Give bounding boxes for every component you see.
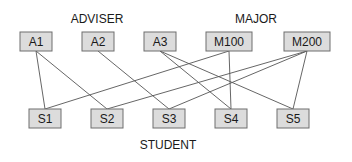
node-label: A1 <box>29 35 44 49</box>
node-a1: A1 <box>20 32 52 51</box>
node-label: A2 <box>91 35 106 49</box>
nodes-layer: A1A2A3M100M200S1S2S3S4S5 <box>20 32 330 128</box>
node-s1: S1 <box>29 109 61 128</box>
relationship-diagram: ADVISER MAJOR STUDENT A1A2A3M100M200S1S2… <box>0 0 352 162</box>
node-label: M200 <box>292 35 322 49</box>
major-group-label: MAJOR <box>235 12 277 26</box>
edge-a3-s4 <box>160 51 231 109</box>
node-m200: M200 <box>284 32 330 51</box>
node-label: S5 <box>286 112 301 126</box>
node-label: M100 <box>214 35 244 49</box>
node-m100: M100 <box>206 32 252 51</box>
node-label: A3 <box>153 35 168 49</box>
adviser-group-label: ADVISER <box>71 12 124 26</box>
node-label: S3 <box>162 112 177 126</box>
node-s3: S3 <box>153 109 185 128</box>
edge-a2-s3 <box>98 51 169 109</box>
edges-layer <box>36 51 307 109</box>
edge-m200-s3 <box>169 51 307 109</box>
node-label: S2 <box>100 112 115 126</box>
edge-m200-s5 <box>293 51 307 109</box>
node-s4: S4 <box>215 109 247 128</box>
edge-a3-s5 <box>160 51 293 109</box>
edge-m100-s4 <box>229 51 231 109</box>
node-s5: S5 <box>277 109 309 128</box>
node-label: S4 <box>224 112 239 126</box>
student-group-label: STUDENT <box>140 138 197 152</box>
node-s2: S2 <box>91 109 123 128</box>
node-a3: A3 <box>144 32 176 51</box>
node-label: S1 <box>38 112 53 126</box>
edge-a1-s1 <box>36 51 45 109</box>
node-a2: A2 <box>82 32 114 51</box>
